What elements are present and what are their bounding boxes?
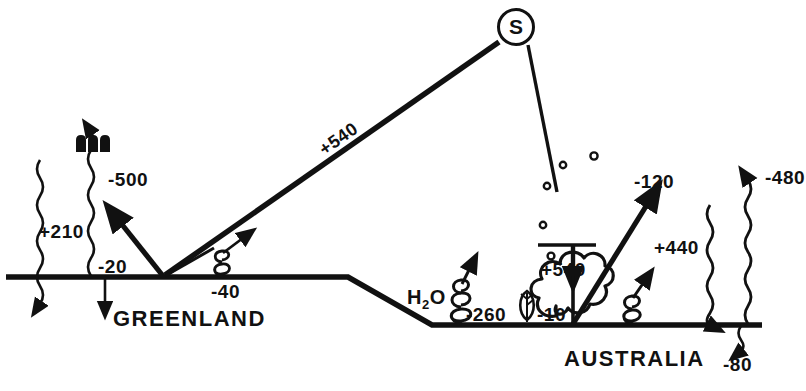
greenland-reflected-shortwave-arrow — [88, 132, 94, 276]
australia-ground-heat-flux-arrow — [739, 326, 744, 351]
region-label-greenland: GREENLAND — [113, 308, 266, 330]
australia-downwelling-longwave-arrow — [707, 205, 713, 325]
h2o-h: H — [407, 286, 422, 308]
smokestacks-icon — [76, 135, 110, 152]
solar-beam-australia — [528, 45, 557, 192]
flux-label-australia-outgoing-longwave: -480 — [765, 168, 805, 187]
greenland-convection-coil-icon — [215, 238, 244, 277]
flux-label-greenland-sensible-heat: -40 — [211, 282, 240, 301]
australia-convection-coil-icon — [624, 282, 644, 324]
water-vapour-label: H2O — [407, 287, 446, 311]
flux-label-greenland-downwelling-longwave: +210 — [39, 222, 84, 241]
flux-label-cloud-reflected-solar: -120 — [634, 172, 674, 191]
sun-label: S — [509, 16, 524, 37]
flux-label-australia-evaporation-latent: -260 — [466, 305, 506, 324]
diagram-vector-layer — [0, 0, 806, 391]
flux-label-australia-downwelling-longwave: +440 — [654, 238, 699, 257]
leaf-icon — [520, 291, 534, 322]
flux-label-australia-photosynthesis: -10 — [537, 305, 566, 324]
flux-label-australia-absorbed-solar: +540 — [541, 260, 586, 279]
h2o-o: O — [430, 286, 446, 308]
region-label-australia: AUSTRALIA — [564, 348, 705, 370]
diagram-canvas: S +540 -500 +210 -20 -40 GREENLAND H2O -… — [0, 0, 806, 391]
flux-label-australia-ground-heat-flux: -80 — [723, 355, 752, 374]
h2o-subscript: 2 — [422, 297, 430, 312]
australia-outgoing-longwave-arrow — [745, 180, 751, 324]
flux-label-greenland-outgoing-longwave: -500 — [108, 170, 148, 189]
flux-label-greenland-reflected-shortwave: -20 — [98, 257, 127, 276]
solar-beam-greenland — [165, 42, 499, 275]
greenland-reflected-beam — [165, 248, 214, 276]
